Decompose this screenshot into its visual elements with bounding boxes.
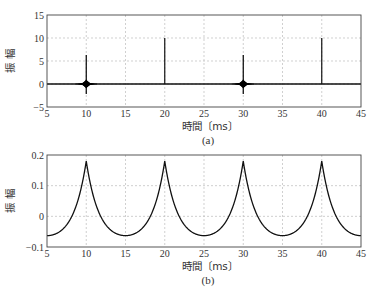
signal-burst-core <box>240 81 246 87</box>
x-tick-label: 30 <box>238 248 248 259</box>
figure: 51015202530354045−5051015時間〔ms〕振 幅(a) 51… <box>0 0 377 294</box>
y-tick-label: 5 <box>39 56 44 67</box>
x-axis-label: 時間〔ms〕 <box>182 120 238 132</box>
y-tick-label: −0.1 <box>26 242 44 253</box>
y-axis-label: 振 幅 <box>4 189 16 212</box>
x-tick-label: 5 <box>45 108 50 119</box>
x-tick-label: 5 <box>45 248 50 259</box>
chart-a: 51015202530354045−5051015時間〔ms〕振 幅(a) <box>4 10 366 148</box>
x-tick-label: 40 <box>317 108 327 119</box>
x-tick-label: 15 <box>121 108 131 119</box>
y-tick-label: 10 <box>34 33 44 44</box>
x-tick-label: 10 <box>81 108 91 119</box>
x-tick-label: 20 <box>160 108 170 119</box>
x-tick-label: 30 <box>238 108 248 119</box>
y-tick-label: 0 <box>39 79 44 90</box>
caption: (a) <box>202 134 215 147</box>
x-tick-label: 40 <box>317 248 327 259</box>
x-tick-label: 25 <box>199 248 209 259</box>
signal-burst-core <box>83 81 89 87</box>
x-tick-label: 35 <box>278 248 288 259</box>
x-tick-label: 25 <box>199 108 209 119</box>
chart-b: 51015202530354045−0.100.10.2時間〔ms〕振 幅(b) <box>4 150 366 288</box>
x-tick-label: 35 <box>278 108 288 119</box>
y-tick-label: 0.1 <box>32 180 45 191</box>
x-tick-label: 15 <box>121 248 131 259</box>
y-tick-label: 0.2 <box>32 150 45 161</box>
x-tick-label: 45 <box>356 248 366 259</box>
caption: (b) <box>202 274 215 287</box>
x-tick-label: 20 <box>160 248 170 259</box>
y-axis-label: 振 幅 <box>4 49 16 72</box>
x-tick-label: 45 <box>356 108 366 119</box>
y-tick-label: −5 <box>33 102 44 113</box>
y-tick-label: 0 <box>39 211 44 222</box>
x-axis-label: 時間〔ms〕 <box>182 260 238 272</box>
y-tick-label: 15 <box>34 10 44 21</box>
x-tick-label: 10 <box>81 248 91 259</box>
